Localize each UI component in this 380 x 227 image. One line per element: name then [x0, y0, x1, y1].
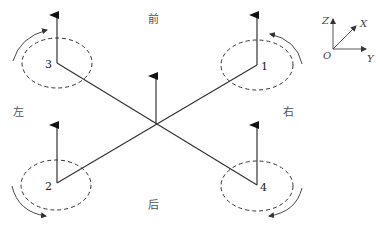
- direction-front-label: 前: [148, 12, 159, 26]
- direction-left-label: 左: [13, 106, 24, 119]
- z-axis-label: Z: [321, 15, 330, 26]
- rotation-arrow-1-icon: [270, 34, 302, 64]
- coordinate-system: Z X Y O: [321, 15, 375, 64]
- origin-label: O: [323, 50, 331, 61]
- rotation-arrow-4-icon: [269, 188, 302, 216]
- direction-right-label: 右: [283, 105, 294, 119]
- motor-label-4: 4: [260, 181, 267, 194]
- rotation-arrow-3-icon: [13, 30, 47, 61]
- x-axis-label: X: [359, 18, 368, 29]
- direction-back-label: 后: [148, 199, 159, 212]
- motor-label-3: 3: [45, 58, 52, 71]
- rotation-arrow-2-icon: [12, 186, 46, 216]
- rotor-disc-2: [21, 160, 91, 210]
- motor-label-1: 1: [261, 60, 268, 73]
- arm-2-to-1: [57, 65, 257, 183]
- x-axis: [333, 26, 356, 49]
- quadrotor-diagram: 3 1 2 4 前 后 左 右 Z X Y O: [0, 0, 380, 227]
- frame-arms: [57, 63, 257, 185]
- y-axis-label: Y: [367, 53, 375, 64]
- motor-label-2: 2: [45, 180, 52, 193]
